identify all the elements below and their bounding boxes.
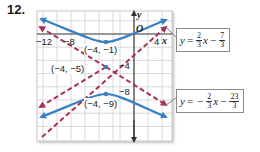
grid (37, 11, 172, 141)
eq2-var: x (213, 95, 218, 107)
eq2-constant-fraction: 23 3 (229, 93, 239, 110)
graph (0, 0, 260, 152)
center-point (104, 65, 109, 70)
point-label-center: (−4, −5) (51, 63, 84, 74)
x-tick-label-4: 4 (154, 36, 159, 47)
eq1-constant-fraction: 7 3 (219, 32, 225, 49)
eq1-coef-fraction: 2 3 (196, 32, 202, 49)
equation-box-1: y = 2 3 x − 7 3 (176, 28, 230, 52)
eq1-equals: = (187, 34, 193, 46)
eq1-lhs: y (180, 34, 185, 46)
point-label-top: (−4, −1) (84, 44, 117, 55)
eq2-sign: − (197, 95, 203, 107)
x-axis-label: x (162, 35, 167, 46)
eq1-var: x (203, 34, 208, 46)
eq2-minus: − (220, 95, 226, 107)
equation-box-2: y = − 2 3 x − 23 3 (176, 89, 244, 113)
point-label-bottom: (−4, −9) (84, 98, 117, 109)
vertex-bottom-point (104, 92, 109, 97)
origin-label: O (136, 23, 143, 34)
y-tick-label-neg8: −8 (119, 86, 130, 97)
eq2-lhs: y (180, 95, 185, 107)
x-tick-label-neg12: −12 (36, 36, 52, 47)
eq1-minus: − (210, 34, 216, 46)
y-tick-label-neg4: −4 (119, 60, 130, 71)
y-axis-label: y (137, 9, 141, 20)
eq2-equals: = (187, 95, 193, 107)
x-tick-label-neg8: −8 (64, 36, 75, 47)
eq2-coef-fraction: 2 3 (206, 93, 212, 110)
